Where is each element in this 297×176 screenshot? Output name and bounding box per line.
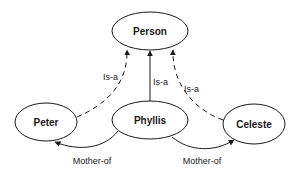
node-person: Person bbox=[112, 12, 188, 50]
edge-label-celeste-is-a: Is-a bbox=[184, 84, 199, 94]
node-phyllis: Phyllis bbox=[112, 101, 188, 139]
edge-label-peter-is-a: Is-a bbox=[103, 72, 118, 82]
node-label-peter: Peter bbox=[33, 117, 58, 128]
node-label-phyllis: Phyllis bbox=[134, 115, 167, 126]
node-celeste: Celeste bbox=[223, 104, 285, 144]
edge-label-mother-of-peter: Mother-of bbox=[73, 156, 112, 166]
node-peter: Peter bbox=[15, 103, 77, 141]
edge-label-phyllis-is-a: Is-a bbox=[153, 77, 168, 87]
node-label-celeste: Celeste bbox=[236, 119, 272, 130]
node-label-person: Person bbox=[133, 26, 167, 37]
semantic-network-diagram: Person Peter Phyllis Celeste Is-a Is-a I… bbox=[0, 0, 297, 176]
edge-label-mother-of-celeste: Mother-of bbox=[183, 156, 222, 166]
edge-phyllis-mother-of-celeste bbox=[172, 137, 234, 149]
edge-peter-is-a-person bbox=[77, 50, 127, 117]
